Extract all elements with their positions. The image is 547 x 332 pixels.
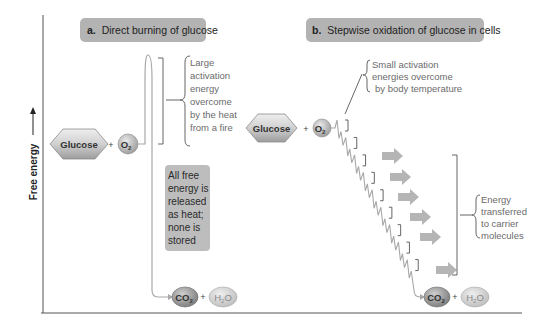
h2o-molecule: H2O [209, 287, 237, 307]
y-axis-arrow-icon [30, 107, 36, 135]
activation-note-a: Large activation energy overcome by the … [190, 57, 240, 133]
step-bracket [380, 190, 383, 201]
glucose-molecule: Glucose [246, 114, 297, 142]
transfer-note: Energy transferred to carrier molecules [481, 194, 530, 241]
transfer-bracket [452, 155, 457, 275]
step-bracket [363, 155, 366, 166]
plus-sign: + [108, 140, 113, 150]
panel-b-title: b. Stepwise oxidation of glucose in cell… [312, 24, 501, 36]
curly-brace [363, 60, 370, 92]
curly-brace [180, 56, 190, 146]
o2-molecule: O2 [313, 119, 331, 137]
step-bracket [415, 260, 418, 271]
plus-sign: + [452, 292, 457, 302]
step-bracket [371, 172, 374, 183]
step-bracket [389, 207, 392, 218]
energy-arrows [382, 148, 457, 278]
y-axis-label: Free energy [28, 143, 39, 200]
panel-a: a. Direct burning of glucose Glucose + O… [50, 18, 240, 307]
y-axis-label-group: Free energy [28, 143, 39, 200]
plus-sign: + [303, 124, 308, 134]
glucose-molecule: Glucose [50, 129, 108, 159]
step-bracket [354, 137, 357, 148]
step-bracket [398, 225, 401, 236]
plus-sign: + [200, 292, 205, 302]
h2o-molecule: H2O [461, 287, 489, 307]
glucose-label: Glucose [253, 123, 291, 134]
activation-pointer [345, 74, 362, 114]
step-bracket [406, 242, 409, 253]
free-energy-diagram: Free energy a. Direct burning of glucose… [0, 0, 547, 332]
o2-molecule: O2 [118, 134, 138, 154]
activation-note-b: Small activation energies overcome by bo… [372, 59, 462, 94]
curly-brace [472, 195, 480, 238]
energy-transfer-arrow-icon [410, 209, 431, 225]
glucose-label: Glucose [60, 139, 98, 150]
panel-b: b. Stepwise oxidation of glucose in cell… [246, 18, 530, 307]
energy-transfer-arrow-icon [398, 189, 419, 205]
energy-transfer-arrow-icon [436, 262, 457, 278]
panel-a-title: a. Direct burning of glucose [87, 24, 218, 36]
co2-molecule: CO2 [172, 287, 198, 307]
energy-transfer-arrow-icon [390, 169, 411, 185]
step-bracket [345, 120, 348, 131]
co2-molecule: CO2 [424, 287, 450, 307]
energy-curve-stepwise [331, 120, 422, 297]
energy-transfer-arrow-icon [420, 229, 441, 245]
activation-bracket [158, 58, 163, 144]
energy-transfer-arrow-icon [382, 148, 403, 164]
